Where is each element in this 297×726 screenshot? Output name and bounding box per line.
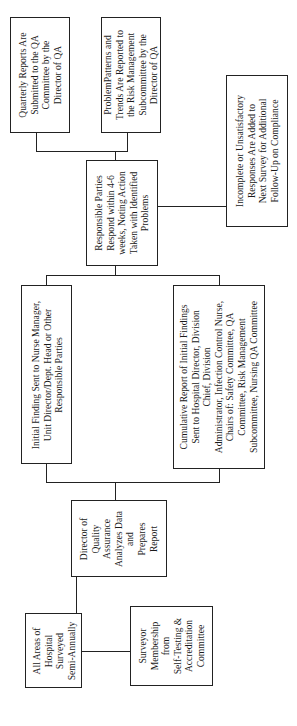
node-surveyor: Surveyor Membership from Self-Testing & … (130, 606, 213, 686)
node-director-qa: Director of Quality Assurance Analyzes D… (71, 500, 167, 577)
node-text: Director of Quality Assurance Analyzes D… (78, 510, 159, 566)
connector-allareas-surveyor (82, 651, 130, 652)
connector-quarterly (36, 133, 37, 152)
connector-response-bar (46, 275, 220, 276)
node-text: Initial Finding Sent to Nurse Manager, U… (29, 300, 64, 448)
connector-response-bottom (115, 266, 116, 276)
connector-incomplete (158, 206, 226, 207)
connector-cumulative-down (219, 469, 220, 483)
node-cumulative-report: Cumulative Report of Initial Findings Se… (173, 285, 265, 469)
node-problem-patterns: ProblemPatterns and Trends Are Reported … (101, 17, 161, 133)
connector-initial-down (46, 464, 47, 482)
node-text: Surveyor Membership from Self-Testing & … (137, 618, 207, 675)
connector-response-top (115, 151, 116, 160)
node-text: ProblemPatterns and Trends Are Reported … (102, 30, 160, 120)
node-text: Quarterly Reports Are Submitted to the Q… (17, 32, 63, 117)
connector-reports-bar (36, 151, 128, 152)
node-responsible-parties: Responsible Parties Respond within 4-6 w… (86, 160, 158, 266)
connector-allareas-director (76, 577, 77, 613)
connector-initial-up (46, 275, 47, 285)
node-text: Responsible Parties Respond within 4-6 w… (93, 171, 151, 254)
node-all-areas: All Areas of Hospital Surveyed Semi-Annu… (25, 613, 82, 688)
connector-director-split (115, 482, 116, 500)
node-text: All Areas of Hospital Surveyed Semi-Annu… (30, 621, 76, 680)
node-text: Incomplete or Unsatisfactory Responses A… (234, 95, 280, 207)
connector-cumulative-up (219, 275, 220, 285)
connector-problem (127, 133, 128, 152)
node-incomplete-responses: Incomplete or Unsatisfactory Responses A… (226, 75, 288, 227)
node-text: Cumulative Report of Initial Findings Se… (178, 301, 259, 453)
node-initial-finding: Initial Finding Sent to Nurse Manager, U… (21, 285, 72, 464)
node-quarterly-reports: Quarterly Reports Are Submitted to the Q… (10, 17, 70, 133)
connector-findings-bar (46, 482, 220, 483)
